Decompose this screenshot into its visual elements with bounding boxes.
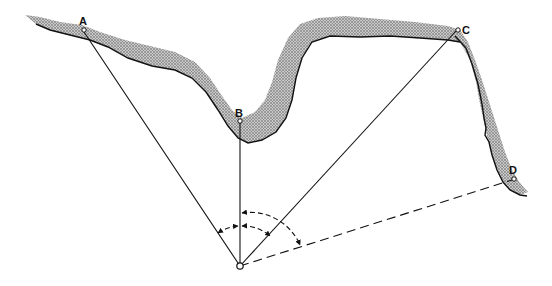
diagram-canvas: A B C D <box>0 0 552 286</box>
label-a: A <box>79 15 87 27</box>
point-a-marker <box>82 28 86 32</box>
label-b: B <box>235 107 243 119</box>
arc-b-c <box>242 226 270 236</box>
label-c: C <box>462 24 470 36</box>
origin-marker <box>237 263 243 269</box>
sight-line-c <box>240 31 456 266</box>
sight-line-d <box>240 180 512 266</box>
arc-a-b <box>218 226 238 233</box>
point-d-marker <box>512 177 516 181</box>
stippled-band <box>25 15 528 195</box>
point-b-marker <box>238 119 242 123</box>
arc-b-d <box>242 212 300 245</box>
point-c-marker <box>456 28 460 32</box>
angle-diagram: A B C D <box>0 0 552 286</box>
label-d: D <box>509 164 517 176</box>
